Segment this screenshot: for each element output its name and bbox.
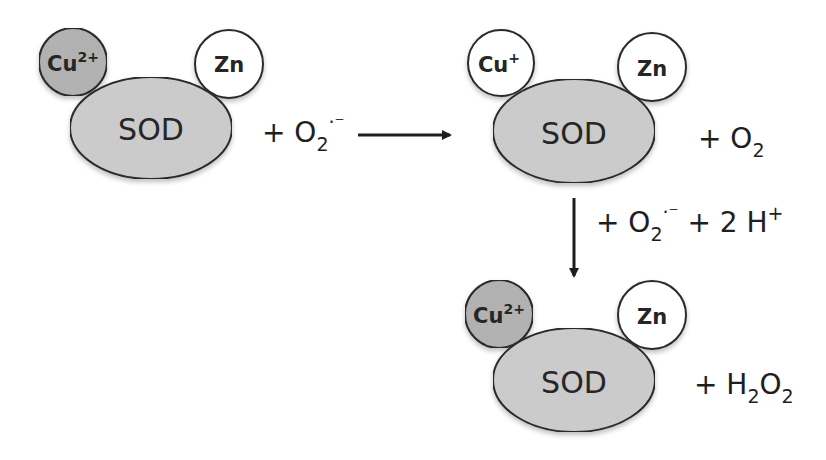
zinc-ion-label: Zn xyxy=(214,53,244,77)
sod-state-3: Cu2+ Zn SOD xyxy=(465,280,686,432)
sod-enzyme-label: SOD xyxy=(541,116,607,151)
reactant-superoxide: + O2·⁻ xyxy=(262,111,345,155)
sod-reaction-diagram: Cu2+ Zn SOD + O2·⁻ Cu+ Zn SOD + O2 + O2·… xyxy=(0,0,826,460)
arrow-label-reagents: + O2·⁻ + 2 H+ xyxy=(596,201,784,245)
product-oxygen: + O2 xyxy=(698,122,765,161)
sod-state-1: Cu2+ Zn SOD xyxy=(39,28,263,179)
zinc-ion-label: Zn xyxy=(637,305,667,329)
sod-enzyme-label: SOD xyxy=(118,112,184,147)
zinc-ion-label: Zn xyxy=(637,57,667,81)
product-hydrogen-peroxide: + H2O2 xyxy=(694,368,794,407)
sod-state-2: Cu+ Zn SOD xyxy=(468,30,686,183)
sod-enzyme-label: SOD xyxy=(541,365,607,400)
